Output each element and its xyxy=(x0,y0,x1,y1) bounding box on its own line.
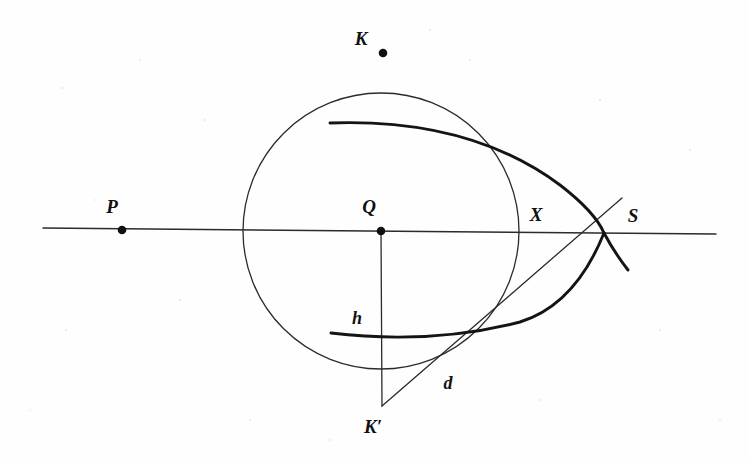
geometry-figure: K P Q X S K′ h d xyxy=(0,0,748,461)
label-d: d xyxy=(444,373,454,393)
label-K-prime: K′ xyxy=(363,416,382,437)
label-Q: Q xyxy=(362,196,376,217)
label-h: h xyxy=(352,308,362,328)
figure-canvas: K P Q X S K′ h d xyxy=(0,0,748,461)
point-dot-K xyxy=(379,49,388,58)
point-dot-P xyxy=(118,226,127,235)
label-X: X xyxy=(529,204,544,225)
label-S: S xyxy=(628,205,639,226)
label-P: P xyxy=(105,196,118,217)
label-K: K xyxy=(354,28,369,49)
point-dot-Q xyxy=(377,227,386,236)
